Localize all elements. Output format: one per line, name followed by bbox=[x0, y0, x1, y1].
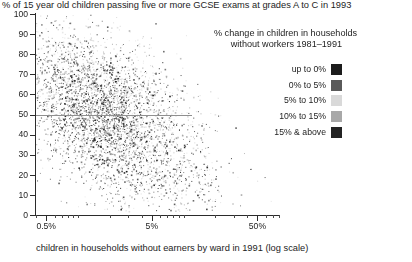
x-axis-minor-tick bbox=[142, 215, 143, 218]
legend-title: % change in children in households witho… bbox=[214, 28, 410, 49]
x-axis-minor-tick bbox=[173, 215, 174, 218]
page-title: % of 15 year old children passing five o… bbox=[2, 0, 351, 11]
y-axis-label: 20 bbox=[0, 171, 28, 180]
y-axis-label: 0 bbox=[0, 211, 28, 220]
x-axis-minor-tick bbox=[179, 215, 180, 218]
x-axis-minor-tick bbox=[110, 215, 111, 218]
y-axis-label: 30 bbox=[0, 150, 28, 159]
x-axis-line bbox=[35, 215, 280, 216]
x-axis-minor-tick bbox=[68, 215, 69, 218]
y-axis-label: 70 bbox=[0, 70, 28, 79]
legend-swatch bbox=[331, 111, 342, 122]
legend-swatch bbox=[331, 80, 342, 91]
x-axis-minor-tick bbox=[62, 215, 63, 218]
y-axis-tick bbox=[30, 115, 36, 116]
x-axis-minor-tick bbox=[215, 215, 216, 218]
y-axis-label: 40 bbox=[0, 130, 28, 139]
x-axis-label: 0.5% bbox=[36, 222, 56, 231]
y-axis-label: 60 bbox=[0, 90, 28, 99]
x-axis-minor-tick bbox=[247, 215, 248, 218]
x-axis-minor-tick bbox=[55, 215, 56, 218]
legend-row[interactable]: 15% & above bbox=[214, 126, 410, 139]
legend: % change in children in households witho… bbox=[214, 28, 410, 141]
y-axis-tick bbox=[30, 54, 36, 55]
y-axis-tick bbox=[30, 14, 36, 15]
x-axis-minor-tick bbox=[160, 215, 161, 218]
legend-label: 10% to 15% bbox=[279, 112, 326, 121]
legend-label: up to 0% bbox=[292, 65, 326, 74]
legend-row[interactable]: up to 0% bbox=[214, 63, 410, 76]
x-axis-label: 5% bbox=[146, 222, 158, 231]
x-axis-minor-tick bbox=[167, 215, 168, 218]
x-axis-minor-tick bbox=[78, 215, 79, 218]
y-axis-tick bbox=[30, 34, 36, 35]
x-axis-minor-tick bbox=[128, 215, 129, 218]
legend-label: 15% & above bbox=[274, 128, 326, 137]
x-axis-minor-tick bbox=[73, 215, 74, 218]
y-axis-label: 100 bbox=[0, 10, 28, 19]
y-axis-label: 10 bbox=[0, 191, 28, 200]
legend-swatch bbox=[331, 64, 342, 75]
y-axis-label: 80 bbox=[0, 50, 28, 59]
y-axis-label: 90 bbox=[0, 30, 28, 39]
y-axis-tick bbox=[30, 74, 36, 75]
x-axis-minor-tick bbox=[279, 215, 280, 218]
x-axis-minor-tick bbox=[234, 215, 235, 218]
x-axis-minor-tick bbox=[36, 215, 37, 218]
scatter-chart: % of 15 year old children passing five o… bbox=[0, 0, 412, 262]
legend-row[interactable]: 0% to 5% bbox=[214, 79, 410, 92]
y-axis-tick bbox=[30, 175, 36, 176]
legend-label: 5% to 10% bbox=[284, 96, 326, 105]
legend-title-line-1: % change in children in households bbox=[214, 28, 357, 38]
y-axis-label: 50 bbox=[0, 110, 28, 119]
legend-row[interactable]: 5% to 10% bbox=[214, 94, 410, 107]
x-axis-minor-tick bbox=[184, 215, 185, 218]
y-axis-tick bbox=[30, 135, 36, 136]
x-axis-label: 50% bbox=[249, 222, 266, 231]
legend-title-line-2: without workers 1981–1991 bbox=[231, 39, 342, 49]
x-axis-caption: children in households without earners b… bbox=[36, 243, 308, 253]
legend-swatch bbox=[331, 95, 342, 106]
x-axis-minor-tick bbox=[266, 215, 267, 218]
y-axis-tick bbox=[30, 94, 36, 95]
legend-label: 0% to 5% bbox=[289, 81, 326, 90]
legend-swatch bbox=[331, 127, 342, 138]
y-axis-tick bbox=[30, 195, 36, 196]
y-axis-tick bbox=[30, 155, 36, 156]
reference-line-50 bbox=[36, 115, 192, 116]
legend-row[interactable]: 10% to 15% bbox=[214, 110, 410, 123]
x-axis-minor-tick bbox=[273, 215, 274, 218]
legend-items: up to 0%0% to 5%5% to 10%10% to 15%15% &… bbox=[214, 63, 410, 138]
